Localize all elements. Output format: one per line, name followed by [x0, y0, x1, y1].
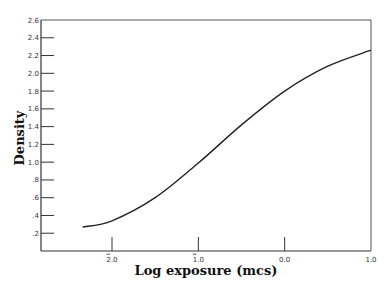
y-tick-label: 2.6 [28, 17, 40, 25]
x-tick-label: 0.0 [279, 256, 290, 264]
y-tick-label: 1.0 [28, 159, 39, 167]
y-tick-label: 1.6 [28, 105, 40, 113]
plot-frame [41, 20, 371, 251]
y-tick-label: .8 [32, 176, 39, 184]
density-curve [83, 50, 371, 227]
y-tick-label: .6 [32, 194, 39, 202]
density-curve-chart: .2.4.6.81.01.21.41.61.82.02.22.42.6 2.01… [0, 0, 390, 289]
y-tick-label: 2.4 [28, 34, 40, 42]
y-tick-label: 2.0 [28, 70, 39, 78]
y-tick-label: 1.8 [28, 88, 39, 96]
x-tick-label: 2.0 [106, 256, 117, 264]
y-tick-label: 1.4 [28, 123, 40, 131]
x-axis-title: Log exposure (mcs) [135, 263, 278, 278]
y-tick-label: .4 [32, 212, 39, 220]
x-tick-label: 1.0 [365, 256, 376, 264]
y-tick-label: 1.2 [28, 141, 39, 149]
y-tick-label: 2.2 [28, 52, 39, 60]
y-tick-label: .2 [32, 230, 39, 238]
y-axis-title: Density [12, 110, 27, 165]
